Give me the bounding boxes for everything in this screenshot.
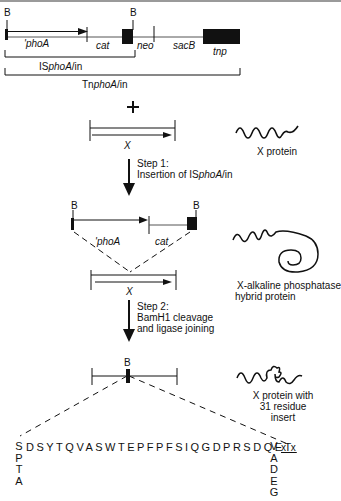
hybrid-protein-label-line1: X-alkaline phosphatase: [237, 280, 341, 291]
tnphoa-bracket-label: TnphoA/in: [82, 79, 128, 90]
bamhi-label-left: B: [4, 7, 11, 18]
gene-label-phoa: 'phoA: [24, 38, 49, 49]
first-residue: S: [14, 441, 24, 453]
gene-label-sacb: sacB: [173, 40, 195, 51]
x-protein-squiggle: [236, 126, 298, 138]
insertion-intermediate: [71, 210, 197, 290]
intermediate-x-label: X: [126, 286, 133, 297]
step1-arrow: [123, 159, 135, 196]
trailing-residues: x x: [281, 442, 297, 453]
gene-label-neo: neo: [137, 40, 154, 51]
insert-sequence: DSYTQVASWTEPFPFSIQGDPRSDQET: [26, 441, 294, 453]
intermediate-phoa-label: 'phoA: [95, 236, 120, 247]
diagram-canvas: B B 'phoA cat neo sacB tnp ISphoA/in Tnp…: [0, 0, 341, 501]
intermediate-cat-label: cat: [155, 236, 168, 247]
last-residue-alt-4: G: [269, 487, 279, 499]
gene-label-tnp: tnp: [213, 46, 227, 57]
intermediate-bamhi-right: B: [193, 200, 200, 211]
last-residue-column: V A D E G: [269, 441, 279, 499]
diagram-graphics: [0, 0, 341, 501]
first-residue-alt-3: A: [14, 476, 24, 488]
last-residue: V: [269, 441, 279, 453]
last-residue-alt-2: D: [269, 464, 279, 476]
step2-arrow: [123, 300, 135, 342]
hybrid-protein-label-line2: hybrid protein: [235, 291, 296, 302]
target-gene-x: [90, 120, 175, 141]
target-gene-label: X: [124, 140, 131, 151]
insert-protein-label-line3: insert: [240, 412, 326, 423]
step2-title: Step 2:: [137, 301, 169, 312]
intermediate-bamhi-left: B: [71, 200, 78, 211]
step1-title: Step 1:: [137, 158, 169, 169]
step2-line3: and ligase joining: [137, 323, 214, 334]
first-residue-column: S P T A: [14, 441, 24, 487]
hybrid-protein-squiggle: [233, 230, 318, 272]
isphoa-bracket-label: ISphoA/in: [39, 61, 82, 72]
first-residue-alt-2: T: [14, 464, 24, 476]
insert-protein-label-line1: X protein with: [240, 390, 326, 401]
step1-description: Insertion of ISphoA/in: [137, 169, 233, 180]
bamhi-label-right: B: [130, 7, 137, 18]
final-bamhi-label: B: [124, 357, 131, 368]
insert-protein-label-line2: 31 residue: [240, 401, 326, 412]
insert-protein-squiggle: [237, 366, 302, 383]
step2-line2: BamH1 cleavage: [137, 312, 213, 323]
x-protein-label: X protein: [257, 146, 297, 157]
plus-sign: [127, 101, 139, 113]
gene-label-cat: cat: [96, 40, 109, 51]
